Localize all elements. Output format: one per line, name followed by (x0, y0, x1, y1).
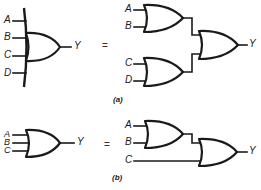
equals-sign: = (104, 140, 110, 150)
part-a-left-4-input-or (13, 8, 71, 87)
input-label-c: C (125, 155, 132, 165)
input-label-a: A (125, 120, 132, 130)
input-label-d: D (125, 75, 132, 85)
or-gate-icon (26, 33, 60, 61)
input-label-a: A (4, 15, 11, 25)
part-b-right-cascade (134, 121, 247, 166)
input-label-b: B (125, 137, 132, 147)
extended-input-spine (24, 8, 27, 87)
input-label-d: D (4, 68, 11, 78)
or-gate-icon (199, 139, 237, 166)
part-b-left-3-input-or (13, 130, 74, 157)
input-label-c: C (4, 146, 11, 155)
output-label-y: Y (74, 41, 81, 51)
or-gate-icon (145, 121, 183, 148)
or-gate-icon (199, 31, 238, 59)
or-gate-icon (144, 58, 183, 86)
part-a-right-or-tree (134, 5, 247, 86)
caption-b: (b) (112, 174, 122, 182)
input-label-b: B (125, 21, 132, 31)
or-gate-icon (144, 5, 183, 32)
input-label-a: A (125, 4, 132, 14)
or-gate-icon (26, 130, 60, 157)
input-label-c: C (125, 58, 132, 68)
caption-a: (a) (113, 96, 123, 104)
output-label-y: Y (249, 39, 256, 49)
or-gate-equivalence-figure: A B C D Y = A B C D Y (a) A B C Y = A B … (0, 0, 261, 190)
output-label-y: Y (77, 137, 84, 147)
equals-sign: = (102, 41, 108, 51)
output-label-y: Y (249, 146, 256, 156)
input-label-c: C (4, 50, 11, 60)
input-label-b: B (4, 32, 11, 42)
